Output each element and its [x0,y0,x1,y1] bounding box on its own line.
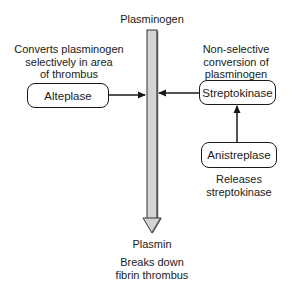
outcome-description: Breaks down fibrin thrombus [100,256,204,281]
description-line: selectively in area [8,56,130,69]
description-line: conversion of [190,56,282,69]
streptokinase-node: Streptokinase [199,80,276,105]
streptokinase-description: Non-selective conversion of plasminogen [190,43,282,81]
pathway-arrow [143,30,161,233]
plasminogen-label: Plasminogen [110,13,194,26]
alteplase-description: Converts plasminogen selectively in area… [8,43,130,81]
description-line: Converts plasminogen [8,43,130,56]
description-line: of thrombus [8,68,130,81]
alteplase-label: Alteplase [44,90,91,102]
description-line: Releases [194,173,284,186]
anistreplase-description: Releases streptokinase [194,173,284,198]
plasmin-label: Plasmin [120,238,184,251]
description-line: streptokinase [194,186,284,199]
outcome-line: fibrin thrombus [100,269,204,282]
outcome-line: Breaks down [100,256,204,269]
streptokinase-label: Streptokinase [202,87,272,99]
description-line: plasminogen [190,68,282,81]
description-line: Non-selective [190,43,282,56]
anistreplase-node: Anistreplase [201,142,277,168]
anistreplase-label: Anistreplase [207,149,270,161]
alteplase-node: Alteplase [27,83,109,108]
